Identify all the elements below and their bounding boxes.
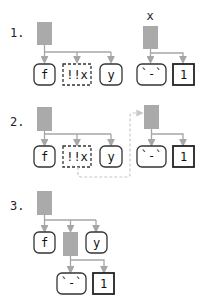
svg-text:f: f bbox=[41, 68, 48, 82]
child-node-one: 1 bbox=[93, 273, 114, 294]
panel-2: 2. f !!x y `-` bbox=[10, 105, 194, 177]
svg-text:f: f bbox=[41, 150, 48, 164]
child-node-f: f bbox=[34, 232, 55, 253]
edges bbox=[152, 129, 184, 143]
child-node-promise: !!x bbox=[63, 64, 91, 85]
call-node bbox=[143, 26, 158, 49]
svg-text:1: 1 bbox=[180, 68, 187, 82]
edges bbox=[45, 45, 112, 60]
child-node-f: f bbox=[34, 146, 55, 167]
svg-text:f: f bbox=[41, 236, 48, 250]
child-node-f: f bbox=[34, 64, 55, 85]
call-node bbox=[37, 191, 52, 215]
call-node bbox=[37, 22, 52, 45]
svg-text:`-`: `-` bbox=[61, 276, 83, 290]
svg-text:y: y bbox=[107, 150, 114, 164]
svg-text:1: 1 bbox=[180, 150, 187, 164]
child-node-minus: `-` bbox=[57, 273, 86, 294]
svg-text:1: 1 bbox=[100, 277, 107, 291]
svg-text:!!x: !!x bbox=[66, 150, 88, 164]
child-node-minus: `-` bbox=[137, 146, 166, 167]
step-label: 1. bbox=[10, 26, 24, 40]
svg-text:y: y bbox=[107, 68, 114, 82]
step-label: 3. bbox=[10, 199, 24, 213]
panel-1: 1. f !!x y x `-` bbox=[10, 9, 194, 85]
binding-label: x bbox=[146, 9, 153, 23]
svg-text:`-`: `-` bbox=[141, 149, 163, 163]
edges bbox=[151, 49, 184, 60]
child-node-one: 1 bbox=[173, 146, 194, 167]
svg-text:`-`: `-` bbox=[141, 67, 163, 81]
svg-text:y: y bbox=[93, 236, 100, 250]
child-node-one: 1 bbox=[173, 64, 194, 85]
call-node bbox=[37, 107, 52, 131]
child-node-promise: !!x bbox=[63, 146, 91, 167]
child-node-y: y bbox=[100, 146, 122, 167]
diagram-canvas: 1. f !!x y x `-` bbox=[0, 0, 204, 307]
edges bbox=[45, 131, 112, 143]
child-node-y: y bbox=[100, 64, 122, 85]
nested-call-node bbox=[63, 232, 78, 256]
child-node-y: y bbox=[86, 232, 107, 253]
edges bbox=[45, 215, 97, 229]
svg-text:!!x: !!x bbox=[66, 68, 88, 82]
child-node-minus: `-` bbox=[137, 64, 166, 85]
step-label: 2. bbox=[10, 115, 24, 129]
call-node bbox=[144, 105, 159, 129]
panel-3: 3. f y `-` 1 bbox=[10, 191, 114, 294]
edges bbox=[71, 256, 105, 270]
